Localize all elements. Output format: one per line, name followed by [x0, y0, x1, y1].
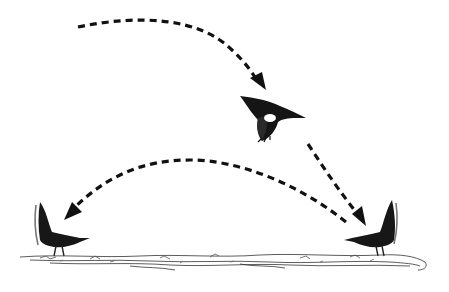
bird-icon — [39, 202, 91, 247]
bird-flying — [240, 96, 306, 142]
arrow-top — [78, 20, 266, 90]
illustration-canvas — [0, 0, 449, 292]
arrowhead-icon — [352, 206, 366, 226]
flight-path-illustration — [0, 0, 449, 292]
wing-patch — [264, 114, 276, 122]
bird-left — [35, 202, 90, 256]
arrow-arc-left — [64, 160, 346, 222]
ground — [20, 254, 426, 270]
